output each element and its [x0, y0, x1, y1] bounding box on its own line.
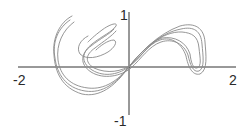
- trajectory-curve: [54, 16, 206, 95]
- x-tick-label-min: -2: [13, 73, 25, 87]
- y-tick-label-max: 1: [120, 8, 128, 22]
- x-tick-label-max: 2: [229, 73, 237, 87]
- y-tick-label-min: -1: [114, 114, 126, 128]
